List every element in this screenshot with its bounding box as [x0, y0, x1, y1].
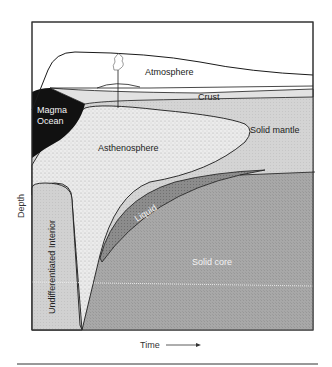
- y-axis-label: Depth: [16, 194, 26, 218]
- right-arrow-icon: [166, 343, 201, 347]
- x-axis-label: Time: [140, 340, 160, 350]
- solid-mantle-label: Solid mantle: [250, 125, 300, 135]
- ocean-label: Ocean: [37, 116, 64, 126]
- asthenosphere-label: Asthenosphere: [98, 143, 159, 153]
- magma-label: Magma: [37, 105, 67, 115]
- atmosphere-label: Atmosphere: [145, 67, 194, 77]
- earth-evolution-diagram: Atmosphere Crust Magma Ocean Asthenosphe…: [0, 0, 332, 367]
- undifferentiated-interior-label: Undifferentiated Interior: [47, 220, 57, 314]
- solid-core-label: Solid core: [192, 257, 232, 267]
- crust-label: Crust: [198, 92, 220, 102]
